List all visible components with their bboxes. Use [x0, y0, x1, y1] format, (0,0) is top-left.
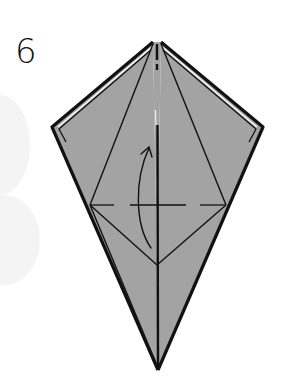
origami-diagram — [0, 0, 282, 392]
paper-left-flap — [52, 42, 158, 370]
paper-right-flap — [157, 42, 263, 370]
